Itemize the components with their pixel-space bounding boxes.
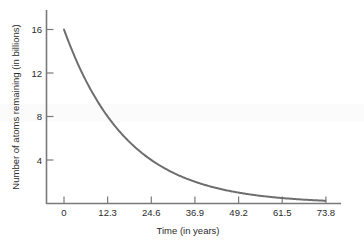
y-tick-label-4: 4	[37, 155, 42, 166]
x-tick-label-61-5: 61.5	[273, 207, 292, 218]
decay-chart: 16 12 8 4 0 12.3 24.6 36.9 49.2 61.5 73.…	[0, 0, 364, 247]
x-tick-label-0: 0	[61, 207, 66, 218]
y-tick-label-8: 8	[37, 111, 42, 122]
x-tick-label-49-2: 49.2	[229, 207, 248, 218]
x-tick-label-12-3: 12.3	[98, 207, 117, 218]
x-tick-label-24-6: 24.6	[142, 207, 161, 218]
chart-background	[0, 0, 364, 247]
y-axis-title: Number of atoms remaining (in billions)	[10, 24, 21, 189]
x-tick-label-36-9: 36.9	[186, 207, 205, 218]
y-tick-label-16: 16	[31, 24, 42, 35]
x-axis-title: Time (in years)	[157, 225, 220, 236]
y-tick-label-12: 12	[31, 68, 42, 79]
scan-band-artifact	[0, 104, 364, 122]
x-tick-label-73-8: 73.8	[317, 207, 336, 218]
